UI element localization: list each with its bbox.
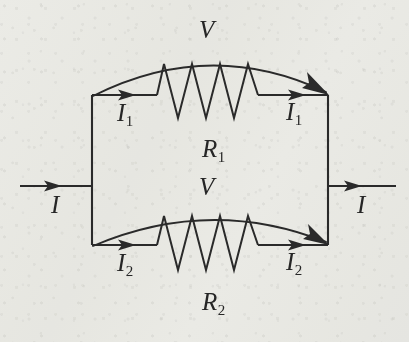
- branch-2-current-label-right-symbol: I: [286, 248, 294, 275]
- branch-2-current-label-left: I2: [117, 250, 133, 275]
- branch-2-current-label-left-symbol: I: [117, 249, 125, 276]
- branch-1-current-label-right-symbol: I: [286, 98, 294, 125]
- resistor-1-label-subscript: 1: [218, 149, 226, 165]
- output-current-label-text: I: [357, 191, 365, 218]
- branch-2-current-label-right: I2: [286, 249, 302, 274]
- voltage-label-top: V: [199, 17, 214, 42]
- output-current-label: I: [357, 192, 365, 217]
- circuit-diagram-figure: V I1 I1 R1 I I V I2 I2 R2: [0, 0, 409, 342]
- resistor-2-label: R2: [202, 289, 225, 314]
- input-current-label: I: [51, 192, 59, 217]
- voltage-label-top-text: V: [199, 16, 214, 43]
- resistor-1-zigzag: [157, 64, 258, 118]
- resistor-2-label-subscript: 2: [218, 302, 226, 318]
- branch-2-current-label-left-subscript: 2: [126, 263, 134, 279]
- branch-1-current-label-left-subscript: 1: [126, 113, 134, 129]
- voltage-label-bottom-text: V: [199, 173, 214, 200]
- resistor-2-label-symbol: R: [202, 288, 217, 315]
- voltage-label-bottom: V: [199, 174, 214, 199]
- resistor-1-label: R1: [202, 136, 225, 161]
- branch-2-current-label-right-subscript: 2: [295, 262, 303, 278]
- branch-1-current-label-left-symbol: I: [117, 99, 125, 126]
- branch-1-current-label-right-subscript: 1: [295, 112, 303, 128]
- resistor-1-label-symbol: R: [202, 135, 217, 162]
- output-lead-group: [328, 181, 396, 192]
- input-lead-group: [20, 181, 92, 192]
- input-current-label-text: I: [51, 191, 59, 218]
- branch-1-current-label-right: I1: [286, 99, 302, 124]
- branch-1-current-label-left: I1: [117, 100, 133, 125]
